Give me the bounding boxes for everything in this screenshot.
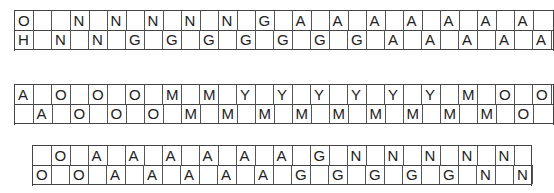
letter-cell: M — [403, 104, 423, 123]
letter-cell: Y — [384, 85, 404, 104]
letter-cell: N — [88, 30, 108, 49]
letter-cell: N — [181, 11, 201, 30]
letter-cell: A — [143, 165, 163, 184]
letter-cell: M — [440, 104, 460, 123]
letter-cell: A — [14, 85, 34, 104]
letter-cell: A — [88, 146, 108, 165]
letter-cell: O — [88, 85, 108, 104]
letter-cell: G — [310, 146, 330, 165]
letter-cell: G — [402, 165, 422, 184]
letter-cell: G — [439, 165, 459, 184]
grid-left-border — [14, 10, 15, 51]
letter-cell: Y — [310, 85, 330, 104]
letter-cell: M — [218, 104, 238, 123]
letter-cell: Y — [273, 85, 293, 104]
letter-cell: G — [162, 30, 182, 49]
letter-cell: A — [273, 146, 293, 165]
letter-cell: A — [180, 165, 200, 184]
block-2: AOOOMMYYYYYYMOOAOOOMMMMMMMMMO — [14, 84, 554, 125]
letter-cell: N — [107, 11, 127, 30]
letter-cell: M — [181, 104, 201, 123]
grid-row: AOOOMMMMMMMMMO — [14, 104, 554, 124]
letter-cell: N — [51, 30, 71, 49]
letter-cell: A — [421, 30, 441, 49]
letter-cell: O — [125, 85, 145, 104]
letter-cell: A — [106, 165, 126, 184]
letter-cell: A — [236, 146, 256, 165]
block-1: ONNNNNGAAAAAAAHNNGGGGGGGAAAAA — [14, 10, 554, 51]
letter-cell: O — [144, 104, 164, 123]
letter-cell: M — [162, 85, 182, 104]
letter-cell: N — [495, 146, 515, 165]
letter-cell: N — [458, 146, 478, 165]
grid-left-border — [14, 84, 15, 125]
letter-cell: O — [107, 104, 127, 123]
letter-cell: O — [14, 11, 34, 30]
letter-cell: A — [254, 165, 274, 184]
letter-cell: A — [292, 11, 312, 30]
grid-left-border — [32, 145, 33, 186]
letter-cell: A — [477, 11, 497, 30]
letter-cell: Y — [421, 85, 441, 104]
grid-right-border — [531, 145, 532, 186]
letter-cell: A — [532, 30, 552, 49]
letter-cell: O — [532, 85, 552, 104]
grid-row: ONNNNNGAAAAAAA — [14, 10, 554, 31]
letter-cell: M — [292, 104, 312, 123]
letter-cell: A — [403, 11, 423, 30]
letter-cell: N — [218, 11, 238, 30]
grid-row: HNNGGGGGGGAAAAA — [14, 30, 554, 50]
letter-cell: N — [347, 146, 367, 165]
letter-cell: M — [199, 85, 219, 104]
letter-cell: O — [69, 165, 89, 184]
letter-cell: H — [14, 30, 34, 49]
letter-cell: A — [199, 146, 219, 165]
letter-cell: M — [458, 85, 478, 104]
letter-cell: G — [347, 30, 367, 49]
letter-cell: O — [514, 104, 534, 123]
letter-cell: O — [32, 165, 52, 184]
letter-cell: N — [144, 11, 164, 30]
letter-cell: G — [236, 30, 256, 49]
letter-cell: A — [440, 11, 460, 30]
letter-cell: M — [329, 104, 349, 123]
letter-cell: N — [513, 165, 533, 184]
letter-cell: A — [33, 104, 53, 123]
letter-cell: A — [514, 11, 534, 30]
letter-cell: G — [199, 30, 219, 49]
letter-cell: A — [495, 30, 515, 49]
letter-cell: A — [217, 165, 237, 184]
letter-cell: A — [329, 11, 349, 30]
letter-cell: G — [291, 165, 311, 184]
letter-cell: A — [162, 146, 182, 165]
letter-cell: O — [51, 85, 71, 104]
letter-cell: G — [328, 165, 348, 184]
letter-cell: G — [365, 165, 385, 184]
letter-cell: M — [477, 104, 497, 123]
letter-cell: Y — [236, 85, 256, 104]
letter-cell: G — [310, 30, 330, 49]
block-3: OAAAAAAGNNNNNOOAAAAAGGGGGNN — [32, 145, 532, 186]
letter-cell: O — [495, 85, 515, 104]
grid-row: OOAAAAAGGGGGNN — [32, 165, 532, 185]
letter-cell: N — [421, 146, 441, 165]
letter-cell: A — [458, 30, 478, 49]
letter-cell: G — [255, 11, 275, 30]
letter-cell: O — [51, 146, 71, 165]
letter-cell: Y — [347, 85, 367, 104]
grid-row: OAAAAAAGNNNNN — [32, 145, 532, 166]
letter-cell: A — [125, 146, 145, 165]
letter-cell: N — [476, 165, 496, 184]
letter-cell: M — [255, 104, 275, 123]
letter-cell — [51, 11, 71, 30]
letter-cell: A — [384, 30, 404, 49]
grid-row: AOOOMMYYYYYYMOO — [14, 84, 554, 105]
letter-cell: A — [366, 11, 386, 30]
letter-cell: N — [384, 146, 404, 165]
letter-cell: O — [70, 104, 90, 123]
letter-cell: G — [273, 30, 293, 49]
letter-cell: N — [70, 11, 90, 30]
letter-cell: M — [366, 104, 386, 123]
letter-cell: G — [125, 30, 145, 49]
